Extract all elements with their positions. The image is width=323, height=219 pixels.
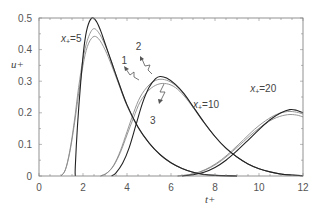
y-tick-label: 0.1 — [18, 139, 32, 150]
x-tick-label: 6 — [168, 182, 174, 193]
series-line — [178, 111, 303, 176]
series-line — [75, 18, 237, 176]
x-tick-label: 12 — [297, 182, 309, 193]
x-tick-label: 10 — [253, 182, 265, 193]
x-tick-label: 4 — [124, 182, 130, 193]
y-tick-label: 0.5 — [18, 13, 32, 24]
x-tick-label: 2 — [80, 182, 86, 193]
annotation-label: 1 — [122, 55, 128, 66]
annotation-label: 3 — [150, 115, 156, 126]
annotation-label: 2 — [136, 41, 142, 52]
series-line — [178, 115, 303, 176]
y-tick-label: 0.2 — [18, 107, 32, 118]
y-tick-label: 0 — [26, 171, 32, 182]
series-line — [101, 83, 303, 176]
y-tick-label: 0.4 — [18, 44, 32, 55]
x-tick-label: 8 — [212, 182, 218, 193]
x-tick-label: 0 — [36, 182, 42, 193]
series-curves — [61, 18, 303, 176]
y-axis-label: u+ — [11, 58, 24, 70]
y-tick-label: 0.3 — [18, 76, 32, 87]
annotation-label: x+=5 — [60, 33, 82, 45]
annotation-label: x+=20 — [249, 83, 276, 95]
annotation-label: x+=10 — [192, 99, 219, 111]
x-axis-label: t+ — [205, 193, 215, 205]
line-chart: 02468101200.10.20.30.40.5 x+=5x+=10x+=20… — [0, 0, 323, 219]
